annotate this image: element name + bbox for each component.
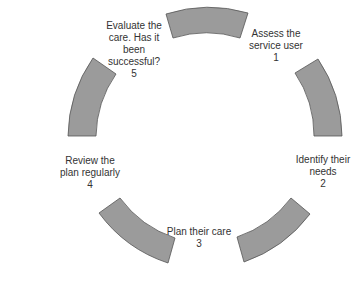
- step-2-label: Identify their needs 2: [283, 154, 360, 190]
- step-5-number: 5: [97, 68, 171, 80]
- step-5-label: Evaluate the care. Has it been successfu…: [97, 20, 171, 80]
- step-2-line1: Identify their: [283, 154, 360, 166]
- step-2-number: 2: [283, 178, 360, 190]
- step-3-label: Plan their care 3: [154, 226, 244, 250]
- step-5-line4: successful?: [97, 56, 171, 68]
- step-5-line3: been: [97, 44, 171, 56]
- step-4-line1: Review the: [50, 155, 130, 167]
- step-5-line1: Evaluate the: [97, 20, 171, 32]
- step-1-number: 1: [236, 52, 316, 64]
- arc-segment-bottom-right: [237, 198, 310, 262]
- step-1-line2: service user: [236, 40, 316, 52]
- arc-segment-right: [295, 59, 342, 136]
- step-4-label: Review the plan regularly 4: [50, 155, 130, 191]
- step-1-label: Assess the service user 1: [236, 28, 316, 64]
- step-3-line1: Plan their care: [154, 226, 244, 238]
- step-2-line2: needs: [283, 166, 360, 178]
- step-4-number: 4: [50, 179, 130, 191]
- step-4-line2: plan regularly: [50, 167, 130, 179]
- step-3-number: 3: [154, 238, 244, 250]
- step-5-line2: care. Has it: [97, 32, 171, 44]
- step-1-line1: Assess the: [236, 28, 316, 40]
